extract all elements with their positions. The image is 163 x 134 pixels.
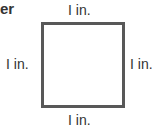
square-shape xyxy=(41,22,125,108)
left-side-label: I in. xyxy=(6,56,29,72)
right-side-label: I in. xyxy=(130,56,153,72)
bottom-side-label: I in. xyxy=(68,112,91,128)
top-side-label: I in. xyxy=(68,2,91,18)
heading-fragment: er xyxy=(0,0,14,18)
